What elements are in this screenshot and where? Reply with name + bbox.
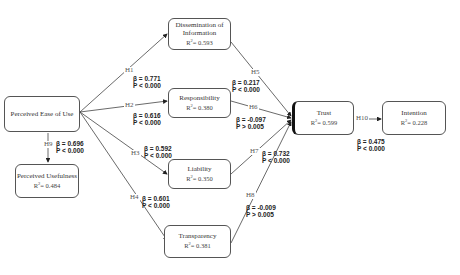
hypothesis-label-h5: H5 <box>250 69 261 76</box>
path-stat-h6: β = -0.097P > 0.005 <box>236 116 266 131</box>
hypothesis-label-h10: H10 <box>355 115 369 122</box>
path-stat-h2: β = 0.616P < 0.000 <box>133 112 161 127</box>
r-squared: R2= 0.350 <box>186 174 213 183</box>
path-stat-h9: β = 0.696P < 0.000 <box>56 140 84 155</box>
r-squared: R2= 0.593 <box>186 38 213 47</box>
path-stat-h1: β = 0.771P < 0.000 <box>133 75 161 90</box>
node-label: Liability <box>187 165 211 174</box>
path-stat-h4: β = 0.601P < 0.000 <box>142 195 170 210</box>
node-intention: Intention R2= 0.228 <box>382 101 446 135</box>
node-label: Responsibility <box>179 94 219 103</box>
path-stat-h3: β = 0.592P < 0.000 <box>144 145 172 160</box>
r-squared: R2= 0.228 <box>401 118 428 127</box>
r-squared: R2= 0.484 <box>34 181 61 190</box>
node-label: Perceived Usefulness <box>17 172 77 181</box>
hypothesis-label-h1: H1 <box>124 67 135 74</box>
path-stat-h10: β = 0.475P < 0.000 <box>357 138 385 153</box>
path-stat-h5: β = 0.217P < 0.000 <box>232 79 260 94</box>
hypothesis-label-h8: H8 <box>245 192 256 199</box>
node-transparency: Transparency R2= 0.381 <box>164 225 231 258</box>
hypothesis-label-h3: H3 <box>130 150 141 157</box>
r-squared: R2= 0.599 <box>311 118 338 127</box>
r-squared: R2= 0.381 <box>184 241 211 250</box>
node-label-line2: Information <box>183 29 216 38</box>
node-label: Intention <box>401 109 426 118</box>
hypothesis-label-h9: H9 <box>43 141 54 148</box>
node-perceived-usefulness: Perceived Usefulness R2= 0.484 <box>15 164 79 198</box>
path-stat-h8: β = -0.009P > 0.005 <box>246 204 276 219</box>
node-liability: Liability R2= 0.350 <box>168 159 231 189</box>
hypothesis-label-h4: H4 <box>129 194 140 201</box>
node-label: Trust <box>317 109 332 118</box>
hypothesis-label-h2: H2 <box>124 102 135 109</box>
path-stat-h7: β = 0.732P < 0.000 <box>262 150 290 165</box>
node-label: Perceived Ease of Use <box>11 110 74 119</box>
node-label-line1: Dissemination of <box>175 21 223 30</box>
r-squared: R2= 0.380 <box>186 103 213 112</box>
hypothesis-label-h6: H6 <box>248 104 259 111</box>
node-perceived-ease-of-use: Perceived Ease of Use <box>4 96 80 132</box>
node-dissemination-of-information: Dissemination of Information R2= 0.593 <box>168 18 231 50</box>
hypothesis-label-h7: H7 <box>249 148 260 155</box>
node-label: Transparency <box>179 232 217 241</box>
node-trust: Trust R2= 0.599 <box>292 101 354 135</box>
node-responsibility: Responsibility R2= 0.380 <box>168 88 231 118</box>
